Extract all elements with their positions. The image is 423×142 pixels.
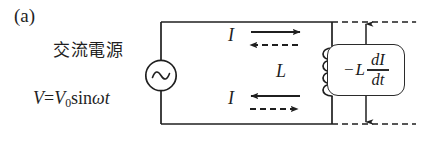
ac-source-label: 交流電源 (53, 42, 123, 59)
current-arrows-top (250, 32, 300, 45)
emf-expression: −L dI dt (328, 45, 404, 95)
source-voltage-equation: V=V0sinωt (33, 89, 110, 110)
ac-source-sine-icon (146, 60, 176, 90)
emf-minus-sign: − (343, 60, 354, 80)
emf-numerator: dI (369, 52, 387, 70)
equation-sin: sin (71, 88, 92, 108)
current-top-label: I (228, 26, 234, 44)
equation-lhs: V (33, 88, 44, 108)
emf-expression-box: −L dI dt (327, 44, 405, 96)
emf-derivative-fraction: dI dt (367, 52, 389, 89)
inductor-ac-circuit-figure: (a) 交流電源 V=V0sinωt I I L −L dI dt (0, 0, 423, 142)
equation-amplitude: V (54, 88, 65, 108)
equation-time: t (105, 88, 110, 108)
current-arrows-bottom (250, 96, 300, 109)
emf-denominator: dt (370, 71, 387, 89)
equation-omega: ω (92, 88, 105, 108)
equation-equals: = (44, 88, 54, 108)
emf-inductance: L (356, 60, 365, 80)
current-bottom-label: I (228, 89, 234, 107)
panel-label: (a) (14, 6, 35, 25)
circuit-loop-wires (161, 22, 332, 124)
inductor-label: L (276, 62, 286, 80)
